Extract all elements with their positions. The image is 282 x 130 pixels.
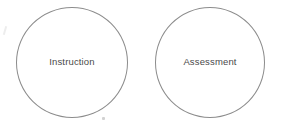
- circle-node-instruction-label: Instruction: [49, 56, 94, 67]
- scan-speck-artifact: [102, 117, 105, 120]
- scan-smudge-artifact: [3, 26, 7, 35]
- diagram-canvas: Instruction Assessment: [0, 0, 282, 130]
- circle-node-assessment-label: Assessment: [183, 56, 236, 67]
- circle-node-instruction[interactable]: Instruction: [16, 7, 128, 118]
- circle-node-assessment[interactable]: Assessment: [155, 7, 265, 118]
